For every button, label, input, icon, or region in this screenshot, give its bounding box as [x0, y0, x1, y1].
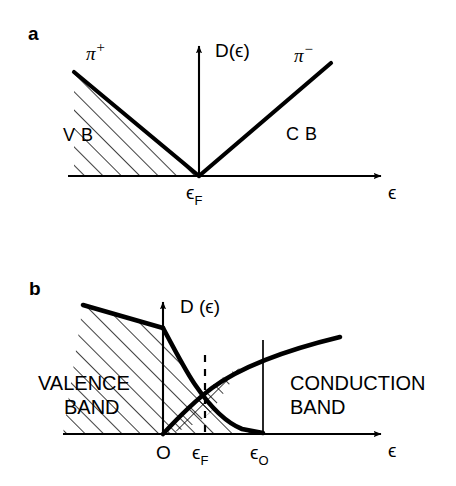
- panel-b-origin-label: O: [156, 442, 171, 463]
- panel-a-x-axis-label: ϵ: [388, 182, 396, 203]
- panel-b-valence-band-label-line2: BAND: [64, 396, 120, 418]
- panel-a-conduction-branch: [199, 63, 331, 176]
- panel-b-cutoff-base: ϵ: [250, 442, 258, 463]
- panel-b-fermi-sub: F: [200, 453, 208, 468]
- svg-text:ϵF: ϵF: [192, 442, 208, 468]
- svg-text:ϵF: ϵF: [186, 182, 202, 208]
- panel-a-pi-plus-label: π+: [86, 39, 106, 64]
- panel-a-pi-minus-base: π: [294, 45, 304, 66]
- panel-b-cutoff-sub: O: [258, 453, 268, 468]
- panel-b-cutoff-label: ϵO: [250, 442, 269, 468]
- panel-b-valence-band-label-line1: VALENCE: [38, 372, 130, 394]
- panel-a-pi-plus-base: π: [86, 43, 96, 64]
- panel-b-letter: b: [29, 278, 41, 299]
- panel-b: b: [29, 278, 426, 468]
- panel-b-fermi-label: ϵF: [192, 442, 208, 468]
- svg-text:π−: π−: [294, 41, 314, 66]
- panel-b-y-axis-label: D (ϵ): [180, 296, 220, 317]
- panel-a-pi-plus-sup: +: [96, 39, 106, 55]
- panel-a-y-axis-label: D(ϵ): [215, 40, 250, 61]
- panel-a-fermi-sub: F: [194, 193, 202, 208]
- panel-a-pi-minus-label: π−: [294, 41, 314, 66]
- panel-b-fermi-base: ϵ: [192, 442, 200, 463]
- density-of-states-figure: a π+ π−: [0, 0, 456, 486]
- panel-b-conduction-band-label-line1: CONDUCTION: [290, 372, 426, 394]
- panel-a-pi-minus-sup: −: [304, 41, 314, 57]
- panel-a-fermi-base: ϵ: [186, 182, 194, 203]
- panel-a-letter: a: [28, 23, 39, 44]
- panel-a-fermi-label: ϵF: [186, 182, 202, 208]
- panel-a: a π+ π−: [28, 23, 396, 208]
- panel-a-valence-band-label: V B: [63, 125, 94, 145]
- svg-text:ϵO: ϵO: [250, 442, 269, 468]
- panel-b-valence-hatching: [55, 295, 175, 440]
- svg-text:π+: π+: [86, 39, 106, 64]
- panel-b-x-axis-label: ϵ: [388, 440, 396, 461]
- figure-root: a π+ π−: [0, 0, 456, 486]
- panel-a-conduction-band-label: C B: [286, 124, 318, 144]
- panel-b-conduction-band-label-line2: BAND: [290, 396, 346, 418]
